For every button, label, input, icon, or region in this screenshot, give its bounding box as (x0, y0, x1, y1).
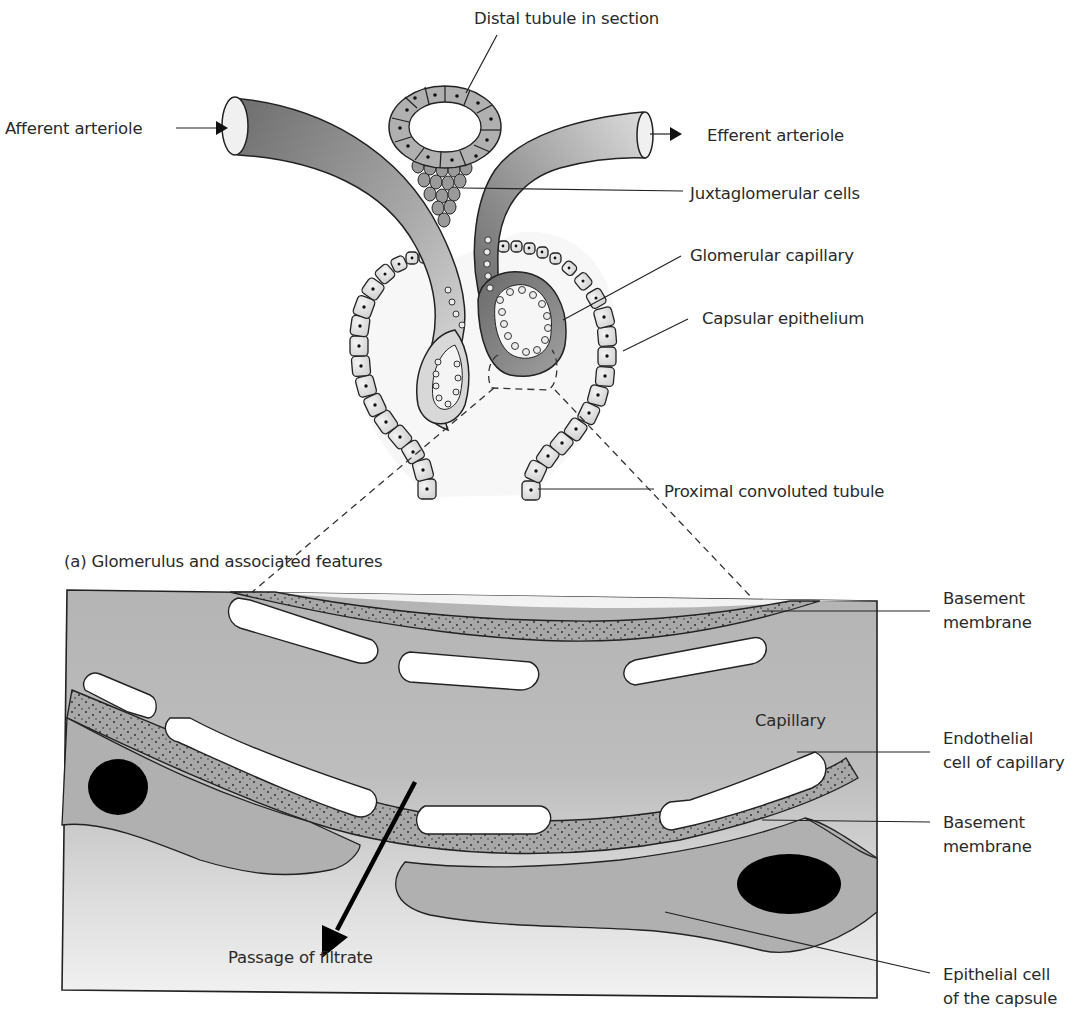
label-epithelial-1: Epithelial cell (943, 964, 1050, 985)
label-basement-membrane-top-2: membrane (943, 612, 1032, 633)
label-passage-of-filtrate: Passage of filtrate (228, 947, 373, 968)
figure-caption: (a) Glomerulus and associated features (64, 551, 382, 572)
label-basement-membrane-bottom-1: Basement (943, 812, 1025, 833)
label-efferent-arteriole: Efferent arteriole (707, 125, 844, 146)
label-glomerular-capillary: Glomerular capillary (690, 245, 854, 266)
nucleus-left (88, 759, 148, 815)
label-capsular-epithelium: Capsular epithelium (702, 308, 864, 329)
diagram-canvas (0, 0, 1091, 1014)
label-epithelial-2: of the capsule (943, 988, 1057, 1009)
label-endothelial-1: Endothelial (943, 728, 1033, 749)
label-endothelial-2: cell of capillary (943, 752, 1064, 773)
detail-panel (62, 590, 877, 998)
nucleus-right (737, 854, 841, 914)
label-capillary: Capillary (755, 710, 826, 731)
glomerulus-figure: Distal tubule in section Afferent arteri… (0, 0, 1091, 1014)
distal-tubule (389, 86, 501, 168)
label-juxtaglomerular-cells: Juxtaglomerular cells (690, 183, 860, 204)
label-distal-tubule: Distal tubule in section (474, 8, 659, 29)
label-basement-membrane-bottom-2: membrane (943, 836, 1032, 857)
label-basement-membrane-top-1: Basement (943, 588, 1025, 609)
label-afferent-arteriole: Afferent arteriole (5, 118, 142, 139)
label-proximal-convoluted-tubule: Proximal convoluted tubule (664, 481, 884, 502)
